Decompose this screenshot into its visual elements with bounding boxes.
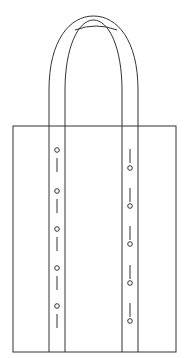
- right-strap-holes: [128, 149, 133, 323]
- grommet-hole: [128, 242, 133, 247]
- strap-inner-edge: [65, 20, 122, 352]
- grommet-hole: [128, 204, 133, 209]
- tote-bag-drawing: [0, 0, 185, 358]
- tote-bag-diagram: [0, 0, 185, 358]
- grommet-hole: [128, 166, 133, 171]
- grommet-hole: [128, 281, 133, 286]
- grommet-hole: [128, 319, 133, 324]
- bag-body: [13, 126, 176, 352]
- grommet-hole: [55, 304, 60, 309]
- left-strap-holes: [55, 148, 60, 328]
- grommet-hole: [55, 227, 60, 232]
- grommet-hole: [55, 189, 60, 194]
- strap-outer-edge: [49, 16, 138, 352]
- grommet-hole: [55, 148, 60, 153]
- grommet-hole: [55, 266, 60, 271]
